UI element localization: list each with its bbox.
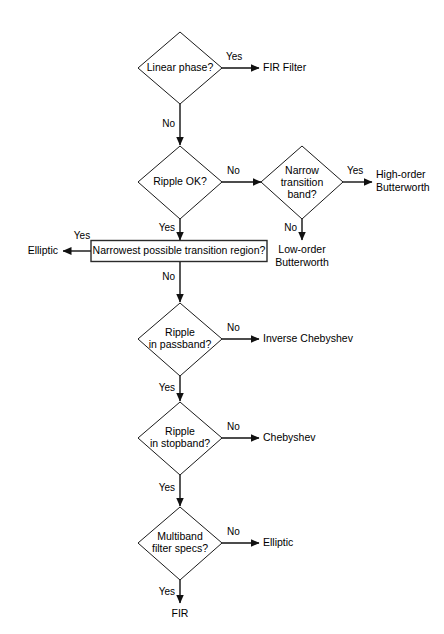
decision-narrow-transition-line3: band? [287, 188, 316, 200]
edge-label-ripple-passband-yes: Yes [159, 382, 175, 393]
terminal-high-order-butterworth-line1: High-order [376, 168, 426, 180]
decision-ripple-ok-label: Ripple OK? [153, 175, 207, 187]
decision-multiband-line1: Multiband [157, 530, 203, 542]
terminal-elliptic-left: Elliptic [28, 244, 58, 256]
decision-linear-phase-label: Linear phase? [147, 61, 214, 73]
decision-narrow-transition-band: Narrow transition band? [261, 146, 343, 219]
decision-ripple-stopband-line1: Ripple [165, 425, 195, 437]
decision-narrow-transition-line1: Narrow [285, 164, 319, 176]
edge-label-linear-phase-no: No [162, 118, 175, 129]
edge-label-multiband-no: No [227, 526, 240, 537]
terminal-chebyshev: Chebyshev [263, 431, 316, 443]
terminal-fir-filter: FIR Filter [263, 61, 307, 73]
terminal-fir: FIR [172, 607, 189, 619]
edge-label-ripple-ok-no: No [227, 165, 240, 176]
process-narrowest-label: Narrowest possible transition region? [93, 244, 266, 256]
decision-multiband-line2: filter specs? [152, 542, 208, 554]
terminal-elliptic-right: Elliptic [263, 536, 293, 548]
edge-label-narrowest-yes: Yes [74, 230, 90, 241]
terminal-high-order-butterworth-line2: Butterworth [376, 181, 430, 193]
decision-ripple-in-stopband: Ripple in stopband? [138, 402, 222, 475]
decision-narrow-transition-line2: transition [281, 176, 324, 188]
edge-label-ripple-stopband-no: No [227, 421, 240, 432]
terminal-inverse-chebyshev: Inverse Chebyshev [263, 332, 354, 344]
edge-label-multiband-yes: Yes [159, 586, 175, 597]
terminal-low-order-butterworth-line2: Butterworth [275, 256, 329, 268]
decision-multiband-filter-specs: Multiband filter specs? [138, 507, 222, 580]
edge-label-linear-phase-yes: Yes [226, 51, 242, 62]
decision-ripple-passband-line1: Ripple [165, 326, 195, 338]
edge-label-narrow-transition-yes: Yes [347, 165, 363, 176]
flowchart-diagram: Linear phase? Ripple OK? Narrow transiti… [0, 0, 444, 634]
decision-linear-phase: Linear phase? [138, 32, 222, 104]
terminal-low-order-butterworth-line1: Low-order [278, 243, 326, 255]
edge-label-narrowest-no: No [162, 271, 175, 282]
process-narrowest-transition-region: Narrowest possible transition region? [91, 241, 267, 262]
decision-ripple-stopband-line2: in stopband? [150, 437, 210, 449]
decision-ripple-ok: Ripple OK? [138, 146, 222, 219]
edge-label-ripple-ok-yes: Yes [159, 222, 175, 233]
edge-label-narrow-transition-no: No [284, 222, 297, 233]
edge-label-ripple-passband-no: No [227, 322, 240, 333]
decision-ripple-in-passband: Ripple in passband? [138, 303, 222, 376]
edge-label-ripple-stopband-yes: Yes [159, 482, 175, 493]
decision-ripple-passband-line2: in passband? [149, 338, 212, 350]
